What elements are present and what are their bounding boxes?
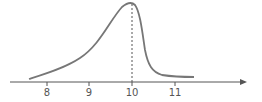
skewed-peak-chart: 8 9 10 11 — [0, 0, 262, 102]
tick-label-11: 11 — [169, 87, 182, 98]
x-axis-arrow-icon — [240, 79, 247, 85]
tick-label-8: 8 — [44, 87, 50, 98]
tick-label-10: 10 — [126, 87, 139, 98]
tick-label-9: 9 — [86, 87, 92, 98]
x-ticks — [47, 82, 175, 86]
distribution-curve — [29, 3, 194, 79]
